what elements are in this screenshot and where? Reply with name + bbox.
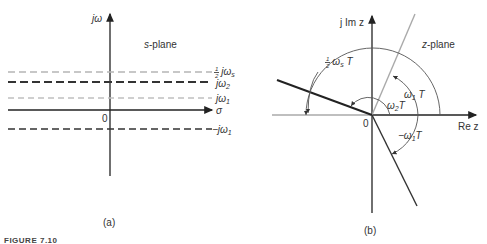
- s-plane-origin-label: 0: [102, 114, 108, 124]
- label-main: ω: [404, 89, 412, 100]
- omega-2-label: jω2: [216, 79, 230, 90]
- label-main: −jω: [212, 124, 228, 135]
- s-plane-real-axis-label: σ: [216, 106, 222, 116]
- label-tail: T: [418, 89, 424, 100]
- label-tail: T: [399, 100, 405, 111]
- label-main: jω: [221, 66, 231, 77]
- label-main: jω: [216, 93, 226, 104]
- label-subscript: 1: [226, 98, 230, 105]
- s-plane-title: s-plane: [144, 40, 177, 50]
- label-main: ω: [387, 100, 395, 111]
- omega-1-T-label: ω1 T: [404, 90, 425, 101]
- label-subscript: 1: [228, 129, 232, 136]
- s-plane-diagram: [8, 14, 212, 176]
- label-subscript: s: [340, 61, 344, 68]
- fraction-numerator: 1: [325, 56, 330, 63]
- label-tail: T: [416, 130, 422, 141]
- fraction-numerator: 1: [214, 66, 219, 73]
- z-plane-imag-axis-label: j Im z: [340, 18, 364, 28]
- label-main: jω: [216, 78, 226, 89]
- label-tail: T: [346, 56, 352, 67]
- neg-omega-1-T-label: −ω1T: [398, 131, 422, 142]
- half-omega-s-T-label: 12ωs T: [325, 56, 353, 69]
- s-plane-title-rest: -plane: [149, 39, 177, 50]
- neg-omega-1-ray: [372, 115, 417, 206]
- z-plane-title: z-plane: [422, 40, 455, 50]
- z-plane-title-rest: -plane: [427, 39, 455, 50]
- omega-2-arc: [351, 97, 390, 115]
- panel-b-label: (b): [364, 226, 376, 236]
- z-plane-real-axis-label: Re z: [458, 122, 479, 132]
- fraction-denominator: 2: [325, 63, 330, 69]
- label-main: ω: [332, 56, 340, 67]
- figure-canvas: [0, 0, 487, 244]
- figure-caption: FIGURE 7.10: [4, 236, 58, 244]
- label-subscript: 2: [226, 83, 230, 90]
- neg-omega-1-label: −jω1: [212, 125, 232, 136]
- z-plane-origin-label: 0: [363, 119, 369, 129]
- omega-1-label: jω1: [216, 94, 230, 105]
- panel-a-label: (a): [103, 218, 115, 228]
- label-subscript: 1: [412, 94, 416, 101]
- label-subscript: s: [231, 71, 235, 78]
- omega-2-ray: [277, 80, 372, 115]
- s-plane-imag-axis-label: jω: [92, 14, 102, 24]
- label-main: −ω: [398, 130, 412, 141]
- omega-2-T-label: ω2T: [387, 101, 405, 112]
- one-half-fraction: 12: [325, 56, 330, 69]
